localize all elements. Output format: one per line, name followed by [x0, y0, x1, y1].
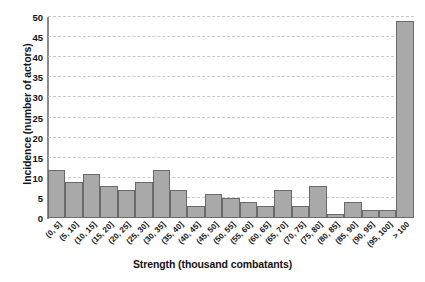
bar-slot: [100, 17, 117, 218]
y-axis-tick-label: 35: [3, 72, 43, 83]
bar: [240, 202, 257, 218]
histogram-figure: Incidence (number of actors) 05101520253…: [0, 0, 425, 282]
x-axis-tick-labels: (0, 5](5, 10](10, 15](15, 20](20, 25](25…: [48, 219, 414, 255]
bar: [118, 190, 135, 218]
y-axis-tick-label: 0: [3, 213, 43, 224]
bar-slot: [396, 17, 413, 218]
bar-slot: [240, 17, 257, 218]
bar: [83, 174, 100, 218]
bar: [65, 182, 82, 218]
bar: [100, 186, 117, 218]
bar-slot: [153, 17, 170, 218]
bar: [257, 206, 274, 218]
bar-slot: [362, 17, 379, 218]
bar: [187, 206, 204, 218]
bar-slot: [344, 17, 361, 218]
bar-slot: [170, 17, 187, 218]
y-axis-tick-label: 40: [3, 52, 43, 63]
bar: [48, 170, 65, 218]
bar: [396, 21, 413, 218]
bar-slot: [48, 17, 65, 218]
bar: [205, 194, 222, 218]
bar-slot: [257, 17, 274, 218]
bar-slot: [118, 17, 135, 218]
y-axis-tick-label: 15: [3, 152, 43, 163]
plot-area: 05101520253035404550: [48, 17, 414, 218]
bar: [344, 202, 361, 218]
bar-slot: [187, 17, 204, 218]
bar: [309, 186, 326, 218]
bar: [135, 182, 152, 218]
bar: [379, 210, 396, 218]
bar-slot: [274, 17, 291, 218]
x-tick-slot: > 100: [396, 219, 413, 255]
x-axis-title: Strength (thousand combatants): [0, 258, 425, 270]
bar-slot: [222, 17, 239, 218]
y-axis-tick-label: 45: [3, 32, 43, 43]
bar-slot: [205, 17, 222, 218]
bar: [274, 190, 291, 218]
bar-slot: [135, 17, 152, 218]
y-axis-tick-label: 50: [3, 12, 43, 23]
bar-slot: [379, 17, 396, 218]
bar-slot: [327, 17, 344, 218]
bar: [292, 206, 309, 218]
y-axis-tick-label: 5: [3, 192, 43, 203]
y-axis-tick-label: 20: [3, 132, 43, 143]
y-axis-tick-label: 25: [3, 112, 43, 123]
bar-slot: [65, 17, 82, 218]
bar: [170, 190, 187, 218]
bar-slot: [309, 17, 326, 218]
bar-slot: [83, 17, 100, 218]
bar-series: [48, 17, 414, 218]
bar: [222, 198, 239, 218]
y-axis-tick-label: 30: [3, 92, 43, 103]
bar: [153, 170, 170, 218]
bar: [327, 214, 344, 218]
bar: [362, 210, 379, 218]
bar-slot: [292, 17, 309, 218]
y-axis-tick-label: 10: [3, 172, 43, 183]
